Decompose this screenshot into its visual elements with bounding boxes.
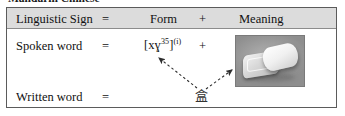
linguistic-sign-table: Linguistic Sign = Form + Meaning Spoken … [6, 7, 337, 108]
figure-root: Mandarin Chinese Linguistic Sign = Form … [0, 0, 345, 116]
meaning-container-photo [235, 35, 305, 87]
header-linguistic-sign-label: Linguistic Sign [16, 13, 93, 26]
ipa-footnote-marker: (i) [173, 37, 181, 46]
header-plus-sign: + [199, 13, 206, 26]
header-equals-sign: = [102, 13, 109, 26]
header-form-label: Form [150, 13, 177, 26]
row-spoken-equals-sign: = [102, 40, 109, 53]
header-meaning-label: Meaning [239, 13, 283, 26]
row-spoken-plus-sign: + [199, 40, 206, 53]
row-spoken-ipa-transcription: [xɣ35](i) [144, 39, 181, 52]
photo-box-lid [261, 41, 301, 72]
row-spoken-word-label: Spoken word [16, 40, 82, 53]
ipa-base: [xɣ [144, 38, 161, 52]
figure-caption-text: Mandarin Chinese [8, 0, 100, 4]
row-written-equals-sign: = [102, 91, 109, 104]
row-written-chinese-character: 盒 [195, 89, 208, 102]
row-written-word-label: Written word [16, 91, 83, 104]
figure-caption-clipped: Mandarin Chinese [0, 0, 345, 7]
ipa-tone-number: 35 [161, 37, 169, 46]
